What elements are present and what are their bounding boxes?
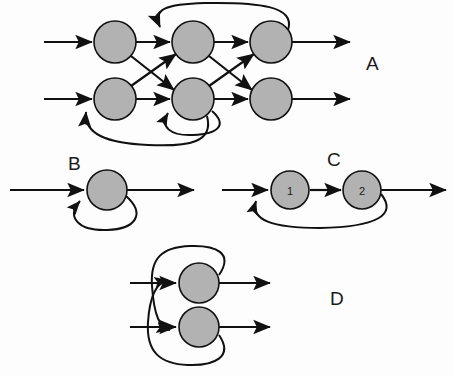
panel-d-node-d1 [179,263,219,303]
panel-a-edge-12-21 [131,54,176,86]
panel-d: D [130,246,344,365]
panel-a-node-a22 [172,78,214,120]
panel-c-label: C [327,149,341,170]
diagram-figure: A B 1 2 C [0,0,454,375]
panel-a-node-a21 [172,21,214,63]
panel-b-node-b1 [87,170,127,210]
panel-d-node-d2 [179,307,219,347]
panel-a-node-a12 [94,78,136,120]
panel-a-label: A [366,53,379,74]
panel-a-node-a11 [94,21,136,63]
panel-a-edge-22-31 [209,54,254,86]
panel-b: B [10,153,194,230]
panel-a-node-a32 [250,78,292,120]
panel-a-node-a31 [250,21,292,63]
panel-a: A [44,3,379,146]
panel-d-label: D [330,288,344,309]
panel-c: 1 2 C [222,149,446,228]
panel-b-label: B [68,153,81,174]
panel-c-node-1-label: 1 [287,185,293,197]
diagram-canvas: A B 1 2 C [0,0,454,375]
panel-c-node-2-label: 2 [359,185,365,197]
